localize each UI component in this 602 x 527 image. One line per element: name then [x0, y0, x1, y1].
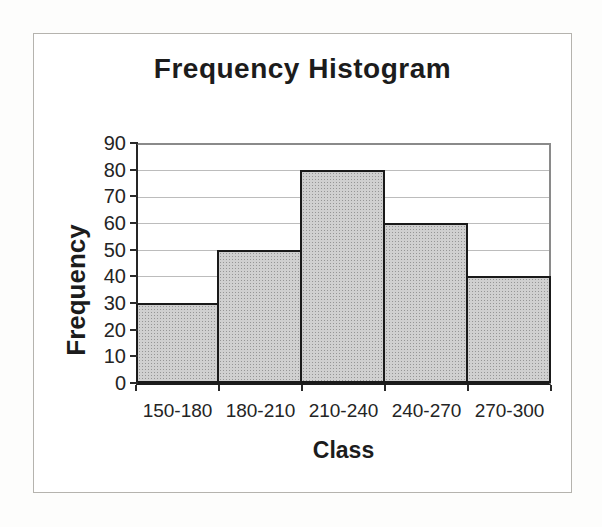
- bar: [136, 303, 219, 383]
- y-tick-label: 60: [62, 213, 126, 233]
- scanned-chart-page: Frequency Histogram Frequency 0102030405…: [0, 0, 602, 527]
- x-tick-mark: [135, 385, 137, 391]
- y-tick-mark: [130, 249, 138, 251]
- x-tick-mark: [218, 385, 220, 391]
- bar: [466, 276, 551, 383]
- x-axis-title: Class: [136, 437, 551, 464]
- y-tick-label: 40: [62, 266, 126, 286]
- y-tick-mark: [130, 329, 138, 331]
- x-tick-label: 240-270: [381, 400, 473, 422]
- bar: [300, 170, 385, 383]
- y-tick-mark: [130, 275, 138, 277]
- x-tick-label: 270-300: [464, 400, 556, 422]
- y-tick-mark: [130, 169, 138, 171]
- y-tick-mark: [130, 382, 138, 384]
- y-tick-mark: [130, 355, 138, 357]
- plot-area: [136, 143, 551, 385]
- y-tick-mark: [130, 195, 138, 197]
- bar: [383, 223, 468, 383]
- x-tick-mark: [550, 385, 552, 391]
- x-tick-label: 180-210: [215, 400, 307, 422]
- x-tick-mark: [384, 385, 386, 391]
- y-tick-label: 0: [62, 373, 126, 393]
- y-tick-label: 20: [62, 319, 126, 339]
- x-tick-label: 150-180: [132, 400, 224, 422]
- y-tick-label: 70: [62, 186, 126, 206]
- y-tick-mark: [130, 222, 138, 224]
- chart-title: Frequency Histogram: [34, 53, 571, 85]
- bar: [217, 250, 302, 383]
- y-tick-label: 50: [62, 239, 126, 259]
- x-tick-mark: [301, 385, 303, 391]
- chart-frame: Frequency Histogram Frequency 0102030405…: [33, 33, 572, 493]
- x-tick-mark: [467, 385, 469, 391]
- y-tick-mark: [130, 302, 138, 304]
- y-tick-label: 30: [62, 293, 126, 313]
- y-tick-label: 10: [62, 346, 126, 366]
- y-tick-mark: [130, 142, 138, 144]
- x-tick-label: 210-240: [298, 400, 390, 422]
- y-tick-label: 90: [62, 133, 126, 153]
- y-tick-label: 80: [62, 159, 126, 179]
